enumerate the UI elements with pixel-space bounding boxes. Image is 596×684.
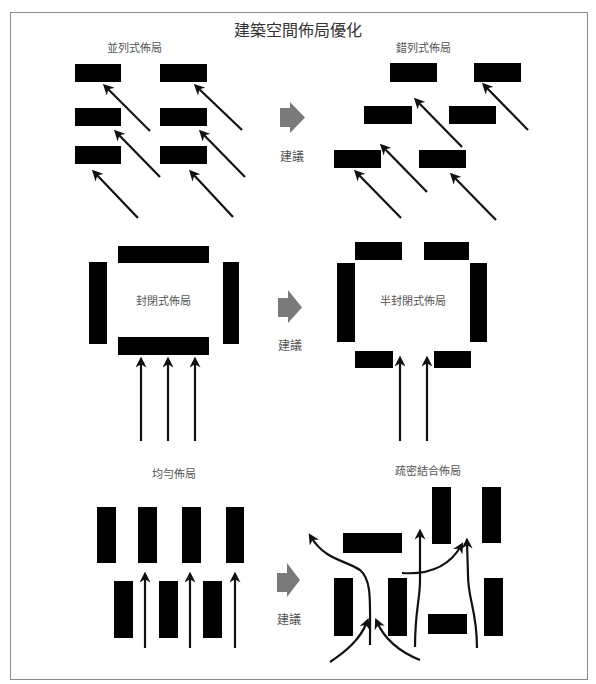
building-block: [337, 263, 355, 342]
suggest-arrow-icon: [278, 290, 302, 323]
label-semi-closed-layout: 半封閉式佈局: [380, 292, 446, 308]
wind-arrow-icon: [202, 133, 245, 177]
suggest-arrow-icon: [280, 102, 305, 133]
building-block: [388, 578, 407, 636]
building-block: [226, 507, 244, 563]
building-block: [355, 242, 402, 260]
building-block: [449, 106, 496, 124]
building-block: [334, 150, 381, 168]
building-block: [482, 487, 501, 543]
building-block: [118, 337, 209, 355]
suggest-arrow-icon: [277, 563, 300, 597]
wind-flow-arrow-icon: [467, 542, 477, 648]
building-block: [75, 108, 121, 126]
building-block: [390, 63, 437, 82]
building-block: [182, 507, 201, 563]
building-block: [138, 507, 157, 563]
building-block: [160, 108, 207, 126]
label-staggered-layout: 錯列式佈局: [396, 39, 451, 55]
wind-flow-arrow-icon: [402, 546, 461, 573]
building-block: [364, 106, 412, 124]
staggered-layout: [334, 63, 528, 220]
label-uniform-layout: 均勻佈局: [152, 465, 196, 481]
building-block: [470, 263, 487, 342]
parallel-layout: [75, 64, 245, 218]
building-block: [419, 150, 466, 168]
building-block: [428, 614, 467, 634]
wind-arrow-icon: [192, 173, 233, 217]
building-block: [484, 578, 503, 636]
building-block: [343, 533, 402, 553]
wind-flow-arrow-icon: [415, 533, 420, 647]
uniform-layout: [97, 507, 244, 648]
wind-arrow-icon: [117, 133, 160, 177]
suggest-label-2: 建議: [278, 336, 302, 353]
building-block: [334, 578, 353, 636]
building-block: [223, 262, 239, 344]
wind-arrow-icon: [95, 173, 138, 218]
building-block: [434, 351, 471, 368]
building-block: [159, 581, 178, 638]
building-block: [203, 581, 222, 638]
building-block: [160, 64, 207, 82]
building-block: [118, 246, 209, 263]
building-block: [89, 262, 107, 344]
building-block: [424, 242, 469, 260]
semi-closed-layout: [337, 242, 487, 441]
building-block: [160, 146, 207, 164]
label-mixed-layout: 疏密結合佈局: [395, 462, 461, 478]
mixed-layout: [311, 487, 503, 662]
building-block: [114, 581, 133, 638]
label-closed-layout: 封閉式佈局: [136, 292, 191, 308]
label-parallel-layout: 並列式佈局: [107, 39, 162, 55]
building-block: [432, 487, 451, 544]
building-block: [75, 64, 121, 82]
diagram-title: 建築空間佈局優化: [234, 17, 362, 41]
wind-arrow-icon: [453, 176, 496, 220]
suggest-label-3: 建議: [277, 610, 301, 627]
closed-layout: [89, 246, 239, 441]
building-block: [474, 63, 521, 82]
suggest-label-1: 建議: [280, 147, 304, 164]
building-block: [355, 351, 393, 368]
wind-arrow-icon: [357, 173, 401, 218]
building-block: [97, 507, 116, 563]
building-block: [75, 146, 121, 164]
